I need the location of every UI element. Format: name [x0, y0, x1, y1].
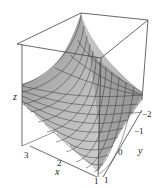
surface-plot: z x y 3 2 1 1 0 −1 −2 [0, 0, 163, 188]
y-tick-minus-2: −2 [142, 109, 152, 119]
z-axis-label: z [12, 91, 17, 102]
y-axis-label: y [137, 145, 143, 156]
x-tick-2: 2 [57, 158, 62, 168]
y-tick-minus-1: −1 [134, 126, 144, 136]
x-tick-1: 1 [94, 176, 99, 186]
y-tick-0: 0 [118, 147, 123, 157]
y-tick-1: 1 [104, 175, 109, 185]
x-tick-3: 3 [24, 150, 29, 160]
